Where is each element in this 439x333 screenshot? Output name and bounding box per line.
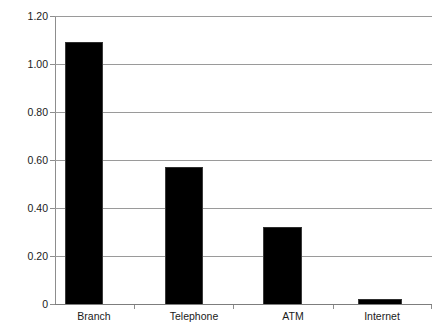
bar-chart: 1.20 1.00 0.80 0.60 0.40 0.20 0 Branch T… bbox=[0, 0, 439, 333]
bar-branch[interactable] bbox=[65, 42, 103, 304]
x-axis-baseline bbox=[55, 304, 432, 305]
gridline bbox=[55, 256, 432, 257]
y-tick-label: 0.40 bbox=[2, 203, 48, 214]
y-tick-label: 0.60 bbox=[2, 155, 48, 166]
x-tick-label-telephone: Telephone bbox=[144, 310, 244, 322]
x-axis-tick bbox=[431, 305, 432, 309]
x-tick-label-internet: Internet bbox=[332, 310, 432, 322]
y-tick-label: 1.20 bbox=[2, 11, 48, 22]
gridline bbox=[55, 16, 432, 17]
y-tick-label: 0.80 bbox=[2, 107, 48, 118]
x-tick-label-atm: ATM bbox=[243, 310, 343, 322]
x-axis-tick bbox=[333, 305, 334, 309]
y-tick-label: 0.20 bbox=[2, 251, 48, 262]
y-tick-label: 1.00 bbox=[2, 59, 48, 70]
plot-area bbox=[55, 16, 432, 304]
bar-atm[interactable] bbox=[263, 227, 302, 304]
gridline bbox=[55, 160, 432, 161]
gridline bbox=[55, 112, 432, 113]
x-tick-label-branch: Branch bbox=[44, 310, 144, 322]
x-axis-tick bbox=[233, 305, 234, 309]
y-tick-label: 0 bbox=[2, 299, 48, 310]
bar-telephone[interactable] bbox=[165, 167, 203, 304]
gridline bbox=[55, 208, 432, 209]
bar-internet[interactable] bbox=[358, 299, 402, 304]
gridline bbox=[55, 64, 432, 65]
y-axis-labels: 1.20 1.00 0.80 0.60 0.40 0.20 0 bbox=[0, 0, 48, 333]
x-axis-tick bbox=[134, 305, 135, 309]
